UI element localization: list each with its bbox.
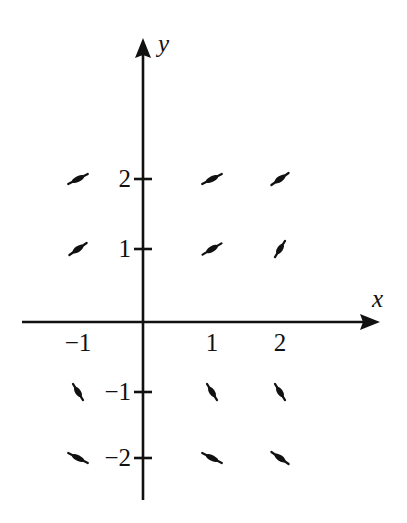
x-axis (22, 314, 380, 330)
direction-field-figure: x y −11221−1−2 (0, 0, 407, 523)
slope-mark (68, 173, 88, 184)
slope-mark (271, 452, 288, 464)
slope-mark (69, 243, 86, 255)
slope-field-marks (68, 173, 288, 464)
slope-mark (206, 384, 217, 400)
slope-mark-body (205, 452, 220, 463)
slope-mark-body (71, 173, 86, 184)
x-tick-label-1: 1 (206, 330, 219, 355)
slope-mark (202, 452, 222, 463)
y-tick-label-1: 1 (119, 236, 132, 261)
slope-mark (274, 384, 285, 400)
x-tick-label--1: −1 (65, 330, 92, 355)
y-axis-arrowhead (135, 38, 151, 58)
slope-mark-body (71, 452, 86, 463)
slope-mark (202, 173, 222, 184)
y-axis (135, 38, 151, 500)
y-tick-label--1: −1 (104, 379, 131, 404)
slope-mark (68, 452, 88, 463)
slope-mark-body (205, 173, 220, 184)
y-tick-label--2: −2 (104, 445, 131, 470)
y-tick-label-2: 2 (119, 166, 132, 191)
slope-mark (271, 173, 288, 185)
x-axis-arrowhead (360, 314, 380, 330)
slope-mark (274, 241, 285, 257)
slope-mark (203, 243, 222, 255)
x-axis-label: x (372, 286, 383, 311)
x-tick-label-2: 2 (274, 330, 287, 355)
y-axis-label: y (158, 31, 169, 56)
plot-canvas (0, 0, 407, 523)
slope-mark (72, 384, 83, 400)
